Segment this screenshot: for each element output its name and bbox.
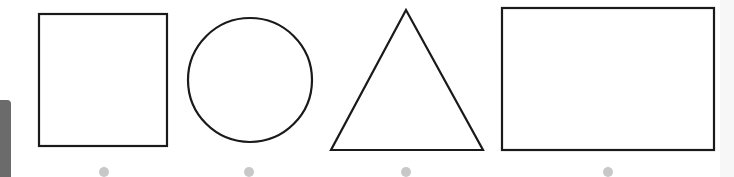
- shapes-svg: [0, 0, 734, 177]
- triangle-dot-marker: [401, 167, 411, 177]
- rectangle-dot-marker: [603, 167, 613, 177]
- circle-shape: [188, 18, 312, 142]
- rectangle-shape: [502, 8, 714, 150]
- circle-dot-marker: [244, 167, 254, 177]
- square-shape: [39, 14, 167, 146]
- triangle-shape: [331, 10, 483, 150]
- shapes-figure: [0, 0, 734, 177]
- square-dot-marker: [99, 167, 109, 177]
